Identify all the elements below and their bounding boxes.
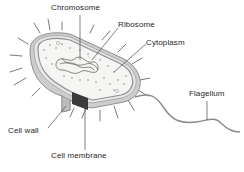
label-ribosome: Ribosome bbox=[118, 21, 155, 29]
label-cytoplasm: Cytoplasm bbox=[146, 39, 185, 47]
label-flagellum: Flagellum bbox=[189, 90, 225, 98]
flagellum bbox=[135, 95, 240, 132]
label-cell-wall: Cell wall bbox=[8, 127, 39, 135]
label-chromosome: Chromosome bbox=[51, 4, 100, 12]
bacterial-cell-diagram: Chromosome Ribosome Cytoplasm Flagellum … bbox=[0, 0, 244, 172]
label-cell-membrane: Cell membrane bbox=[51, 152, 107, 160]
